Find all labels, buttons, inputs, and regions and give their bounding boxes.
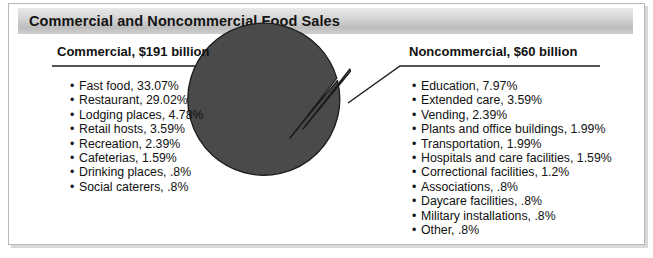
list-item: •Transportation, 1.99%: [412, 137, 612, 151]
list-item-label: Restaurant, 29.02%: [79, 93, 188, 107]
list-item: •Cafeterias, 1.59%: [70, 151, 203, 165]
list-item-label: Vending, 2.39%: [421, 108, 507, 122]
bullet-icon: •: [70, 108, 79, 122]
bullet-icon: •: [412, 79, 421, 93]
list-item: •Fast food, 33.07%: [70, 79, 203, 93]
list-item-label: Drinking places, .8%: [79, 165, 191, 179]
list-item-label: Other, .8%: [421, 223, 479, 237]
callout-heading-noncommercial: Noncommercial, $60 billion: [409, 44, 577, 59]
list-item-label: Extended care, 3.59%: [421, 93, 542, 107]
list-item-label: Plants and office buildings, 1.99%: [421, 122, 605, 136]
bullet-icon: •: [412, 180, 421, 194]
list-item-label: Hospitals and care facilities, 1.59%: [421, 151, 612, 165]
bullet-icon: •: [70, 122, 79, 136]
list-item: •Vending, 2.39%: [412, 108, 612, 122]
bullet-icon: •: [412, 93, 421, 107]
list-item: •Hospitals and care facilities, 1.59%: [412, 151, 612, 165]
bullet-icon: •: [412, 108, 421, 122]
list-item: •Recreation, 2.39%: [70, 137, 203, 151]
list-item-label: Recreation, 2.39%: [79, 137, 180, 151]
list-item: •Daycare facilities, .8%: [412, 194, 612, 208]
list-item: •Correctional facilities, 1.2%: [412, 165, 612, 179]
list-item: •Social caterers, .8%: [70, 180, 203, 194]
bullet-icon: •: [70, 137, 79, 151]
list-item-label: Lodging places, 4.78%: [79, 108, 203, 122]
list-item: •Lodging places, 4.78%: [70, 108, 203, 122]
list-item: •Extended care, 3.59%: [412, 93, 612, 107]
list-item: •Education, 7.97%: [412, 79, 612, 93]
bullet-icon: •: [70, 180, 79, 194]
bullet-icon: •: [70, 93, 79, 107]
list-item: •Retail hosts, 3.59%: [70, 122, 203, 136]
list-item-label: Daycare facilities, .8%: [421, 194, 542, 208]
bullet-icon: •: [412, 122, 421, 136]
bullet-icon: •: [70, 151, 79, 165]
bullet-icon: •: [412, 137, 421, 151]
list-item-label: Retail hosts, 3.59%: [79, 122, 185, 136]
bullet-icon: •: [412, 165, 421, 179]
bullet-icon: •: [70, 79, 79, 93]
bullet-icon: •: [412, 194, 421, 208]
list-item: •Associations, .8%: [412, 180, 612, 194]
list-item-label: Cafeterias, 1.59%: [79, 151, 177, 165]
food-sales-pie-figure: Commercial and Noncommercial Food Sales …: [0, 0, 653, 258]
list-item-label: Military installations, .8%: [421, 209, 556, 223]
list-item-label: Social caterers, .8%: [79, 180, 188, 194]
list-item: •Other, .8%: [412, 223, 612, 237]
list-item: •Restaurant, 29.02%: [70, 93, 203, 107]
list-item-label: Transportation, 1.99%: [421, 137, 542, 151]
list-item-label: Associations, .8%: [421, 180, 518, 194]
bullet-icon: •: [412, 223, 421, 237]
list-item-label: Fast food, 33.07%: [79, 79, 179, 93]
list-item: •Military installations, .8%: [412, 209, 612, 223]
bullet-icon: •: [70, 165, 79, 179]
bullet-icon: •: [412, 209, 421, 223]
list-item: •Drinking places, .8%: [70, 165, 203, 179]
commercial-item-list: •Fast food, 33.07% •Restaurant, 29.02% •…: [70, 79, 203, 194]
list-item-label: Correctional facilities, 1.2%: [421, 165, 569, 179]
noncommercial-item-list: •Education, 7.97% •Extended care, 3.59% …: [412, 79, 612, 237]
pie-slice-commercial: [188, 23, 340, 175]
bullet-icon: •: [412, 151, 421, 165]
callout-heading-commercial: Commercial, $191 billion: [57, 44, 209, 59]
list-item-label: Education, 7.97%: [421, 79, 517, 93]
list-item: •Plants and office buildings, 1.99%: [412, 122, 612, 136]
